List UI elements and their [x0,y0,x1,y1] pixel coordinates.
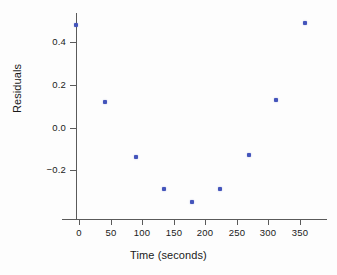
data-point [190,200,194,204]
x-tick-mark-0 [79,219,80,225]
y-tick-label-3: −0.2 [30,165,66,175]
y-tick-label-1: 0.2 [30,80,66,90]
data-point [162,187,166,191]
data-point [247,153,251,157]
y-tick-1: 0.2 [30,85,76,86]
x-tick-mark-3 [174,219,175,225]
data-point [74,23,78,27]
x-axis-line [62,219,327,220]
data-point [303,21,307,25]
x-tick-mark-1 [111,219,112,225]
y-tick-0: 0.4 [30,42,76,43]
x-tick-mark-7 [300,219,301,225]
data-point [103,100,107,104]
x-tick-mark-5 [237,219,238,225]
plot-area: 0.4 0.2 0.0 −0.2 0 50 100 150 200 250 30… [0,0,337,275]
y-axis-line [76,13,77,219]
y-tick-label-2: 0.0 [30,123,66,133]
x-tick-label-7: 350 [280,228,320,238]
y-axis-title: Residuals [11,44,24,134]
x-axis-title: Time (seconds) [0,249,337,262]
x-tick-mark-4 [205,219,206,225]
residual-plot: 0.4 0.2 0.0 −0.2 0 50 100 150 200 250 30… [0,0,337,275]
x-tick-mark-6 [268,219,269,225]
y-tick-2: 0.0 [30,128,76,129]
data-point [218,187,222,191]
y-tick-label-0: 0.4 [30,37,66,47]
data-point [274,98,278,102]
data-point [134,155,138,159]
x-tick-mark-2 [142,219,143,225]
y-tick-3: −0.2 [30,170,76,171]
